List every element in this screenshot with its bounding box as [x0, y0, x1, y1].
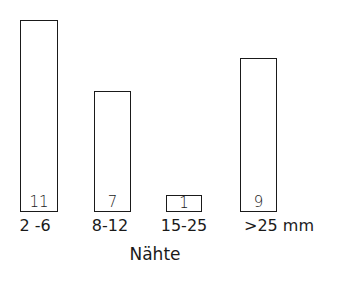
- x-axis-label: Nähte: [120, 244, 190, 264]
- category-label: 2 -6: [0, 216, 70, 235]
- category-label: >25 mm: [244, 216, 334, 235]
- bar-8-12: 7: [94, 91, 131, 212]
- bar-value-label: 9: [241, 194, 276, 211]
- bar-value-label: 11: [21, 194, 57, 211]
- category-label: 8-12: [75, 216, 145, 235]
- bar-over-25: 9: [240, 58, 277, 212]
- bar-value-label: 1: [167, 196, 201, 211]
- category-label: 15-25: [149, 216, 219, 235]
- bar-value-label: 7: [95, 194, 130, 211]
- bar-15-25: 1: [166, 195, 202, 212]
- bar-2-6: 11: [20, 20, 58, 212]
